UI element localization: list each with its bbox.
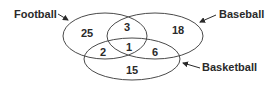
basketball-label: Basketball — [202, 61, 257, 73]
region-football-baseball: 3 — [124, 21, 130, 33]
region-basketball-only: 15 — [126, 64, 138, 76]
region-football-only: 25 — [81, 27, 93, 39]
region-baseball-basketball: 6 — [152, 46, 158, 58]
region-all-three: 1 — [126, 41, 132, 53]
baseball-label: Baseball — [219, 8, 264, 20]
region-football-basketball: 2 — [100, 46, 106, 58]
basketball-arrow-icon — [183, 63, 200, 68]
venn-diagram: Football Baseball Basketball 25 3 18 2 1… — [0, 0, 271, 87]
baseball-arrow-icon — [200, 15, 216, 22]
region-baseball-only: 18 — [172, 24, 184, 36]
football-arrow-icon — [58, 14, 68, 20]
football-label: Football — [14, 8, 57, 20]
